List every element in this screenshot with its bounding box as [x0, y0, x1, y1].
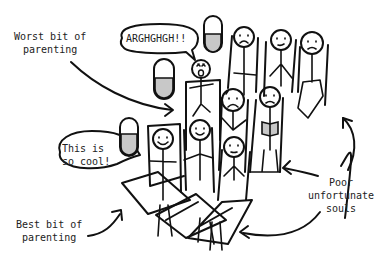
height-gauge-bottom	[120, 118, 138, 156]
seat-middle-book	[250, 87, 283, 172]
label-worst-bit: Worst bit of parenting	[14, 30, 86, 56]
scream-text: ARGHGHGH!!	[126, 32, 186, 45]
arrow-best	[88, 210, 122, 236]
arrow-poor-middle	[283, 161, 318, 176]
happy-line2: so cool!	[62, 155, 110, 168]
arrow-poor-bottom	[240, 212, 320, 238]
label-best-line2: parenting	[16, 231, 82, 244]
label-poor-line3: souls	[306, 202, 376, 215]
height-gauge-top	[204, 16, 222, 52]
label-poor-line1: Poor	[306, 176, 376, 189]
seat-back-1	[228, 27, 258, 95]
seat-middle-screaming	[186, 60, 220, 150]
label-best-line1: Best bit of	[16, 218, 82, 231]
seat-back-3	[298, 32, 328, 118]
label-worst-line2: parenting	[14, 43, 86, 56]
label-best-bit: Best bit of parenting	[16, 218, 82, 244]
happy-speech-text: This is so cool!	[62, 142, 110, 168]
label-poor-souls: Poor unfortunate souls	[306, 176, 376, 215]
arrow-poor-to-right	[343, 118, 354, 170]
rollercoaster-comic: Worst bit of parenting ARGHGHGH!! This i…	[0, 0, 392, 259]
happy-line1: This is	[62, 142, 110, 155]
label-worst-line1: Worst bit of	[14, 30, 86, 43]
label-poor-line2: unfortunate	[306, 189, 376, 202]
height-gauge-middle	[154, 59, 174, 99]
